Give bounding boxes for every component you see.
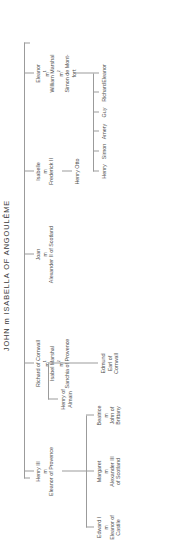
root-spine-cap-right [24, 42, 30, 43]
connector-richard-m2 [62, 362, 98, 363]
leaf-henry-otto: Henry Otto [74, 136, 81, 206]
henry3-tick-margaret [86, 470, 94, 471]
connector-richard-m1 [48, 362, 62, 363]
node-joan-spouse: Alexander II of Scotland [48, 209, 55, 299]
montfort-tick-1 [93, 170, 99, 171]
node-henry3-name: Henry III [35, 426, 42, 516]
montfort-tick-6 [93, 72, 99, 73]
node-eleanor-spouse-2a: Simon de Mont- [64, 28, 71, 118]
leaf-henry-of-almain: Henry of Almain [60, 364, 73, 434]
node-eleanor-marriage-2: m2 [56, 28, 64, 118]
node-beatrice-spouse-line2: Brittany [115, 370, 122, 460]
leaf-edmund-line2: Earl of [107, 355, 113, 371]
node-henry3-spouse: Eleanor of Provence [48, 426, 55, 516]
branch-stem-eleanor [24, 72, 34, 73]
node-richard-name: Richard of Cornwall [35, 318, 42, 408]
connector-henry3-to-children [62, 470, 86, 471]
node-isabelle-name: Isabelle [35, 126, 42, 216]
node-eleanor-marriage-1: m1 [42, 28, 50, 118]
node-eleanor: Eleanor m1 William Marshal m2 Simon de M… [35, 28, 77, 118]
node-isabelle-spouse: Frederick II [48, 126, 55, 216]
montfort-tick-3 [93, 130, 99, 131]
root-spine-line [24, 42, 25, 478]
henry3-tick-beatrice [86, 414, 94, 415]
node-joan-name: Joan [35, 209, 42, 299]
branch-stem-joan [24, 253, 34, 254]
root-spine-cap-left [24, 477, 30, 478]
node-isabelle: Isabelle m Frederick II [35, 126, 54, 216]
montfort-tick-4 [93, 111, 99, 112]
node-eleanor-spouse-1: William Marshal [49, 28, 56, 118]
henry3-tick-edward [86, 526, 94, 527]
node-beatrice-spouse-line1: John of [109, 370, 116, 460]
connector-eleanor-to-children [75, 72, 93, 73]
node-beatrice-name: Beatrice [96, 370, 103, 460]
leaf-montfort-eleanor: Eleanor [101, 38, 108, 108]
montfort-children-bracket [93, 73, 94, 171]
connector-isabelle-to-child [62, 170, 72, 171]
montfort-tick-2 [93, 150, 99, 151]
page-title: JOHN m ISABELLA OF ANGOULÊME [2, 199, 11, 350]
branch-stem-isabelle [24, 170, 34, 171]
node-henry-iii: Henry III m Eleanor of Provence [35, 426, 54, 516]
node-eleanor-name: Eleanor [35, 28, 42, 118]
node-beatrice: Beatrice m John of Brittany [96, 370, 122, 460]
node-joan: Joan m Alexander II of Scotland [35, 209, 54, 299]
montfort-tick-5 [93, 91, 99, 92]
branch-stem-richard [24, 362, 34, 363]
branch-stem-henry3 [24, 470, 34, 471]
leaf-henry-of-almain-line2: Almain [67, 391, 73, 407]
connector-henry-almain [48, 398, 58, 399]
leaf-henry-of-almain-line1: Henry of [60, 389, 66, 409]
bracket-richard-m1 [48, 363, 49, 399]
family-tree-diagram: JOHN m ISABELLA OF ANGOULÊME Eleanor m1 … [0, 0, 178, 549]
